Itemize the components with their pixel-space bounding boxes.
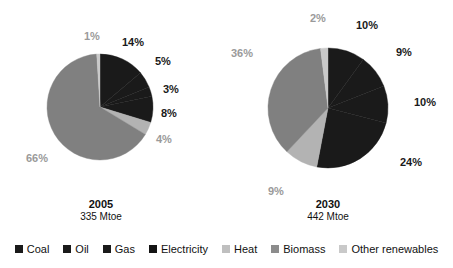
legend-label: Coal [27,244,50,255]
pie-2030-year: 2030 [293,198,363,211]
legend-swatch-icon [339,245,347,253]
pie-2005-caption: 2005 335 Mtoe [66,198,136,222]
pie-2030-slice-label: 9% [268,186,284,197]
legend-item-gas[interactable]: Gas [103,244,135,255]
legend-item-other-renewables[interactable]: Other renewables [339,244,438,255]
legend-item-electricity[interactable]: Electricity [149,244,208,255]
legend-swatch-icon [103,245,111,253]
pie-2030-slice-label: 24% [400,157,422,168]
pie-2005-total: 335 Mtoe [66,211,136,223]
legend-swatch-icon [63,245,71,253]
pie-2030-slice-label: 36% [231,48,253,59]
legend-swatch-icon [271,245,279,253]
legend-label: Heat [234,244,257,255]
legend-swatch-icon [222,245,230,253]
pie-2005-slice-label: 4% [156,134,172,145]
legend-item-heat[interactable]: Heat [222,244,257,255]
charts-container: 1%14%5%3%8%4%66% 2%10%9%10%24%9%36% 2005… [0,0,453,236]
pie-2005-year: 2005 [66,198,136,211]
pie-2030-slice-label: 9% [396,47,412,58]
legend-label: Biomass [283,244,325,255]
pie-2005-slice-label: 1% [84,31,100,42]
legend-label: Oil [75,244,88,255]
chart-legend: CoalOilGasElectricityHeatBiomassOther re… [0,239,453,259]
pie-2030-caption: 2030 442 Mtoe [293,198,363,222]
legend-item-coal[interactable]: Coal [15,244,50,255]
pie-2005 [47,54,153,160]
pie-2005-slice-label: 14% [122,37,144,48]
legend-swatch-icon [15,245,23,253]
pie-2005-slice-label: 3% [163,84,179,95]
pie-2030-slice-label: 2% [310,13,326,24]
legend-label: Electricity [161,244,208,255]
legend-item-oil[interactable]: Oil [63,244,88,255]
legend-label: Other renewables [351,244,438,255]
pie-2030-slice-label: 10% [414,97,436,108]
legend-item-biomass[interactable]: Biomass [271,244,325,255]
pie-2030 [268,48,388,168]
pie-2005-slice-label: 66% [26,153,48,164]
legend-swatch-icon [149,245,157,253]
pie-chart-figure: 1%14%5%3%8%4%66% 2%10%9%10%24%9%36% 2005… [0,0,453,268]
pie-2030-slice-label: 10% [356,20,378,31]
pie-2030-total: 442 Mtoe [293,211,363,223]
legend-label: Gas [115,244,135,255]
pie-2005-slice-label: 8% [161,108,177,119]
pie-2005-slice-label: 5% [155,56,171,67]
